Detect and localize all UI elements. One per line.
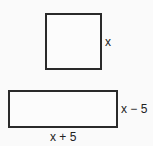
- square-side-label: x: [105, 36, 111, 48]
- rectangle-width-label: x + 5: [50, 131, 76, 143]
- square-shape: [45, 13, 102, 70]
- rectangle-shape: [8, 90, 118, 128]
- rectangle-height-label: x − 5: [121, 103, 147, 115]
